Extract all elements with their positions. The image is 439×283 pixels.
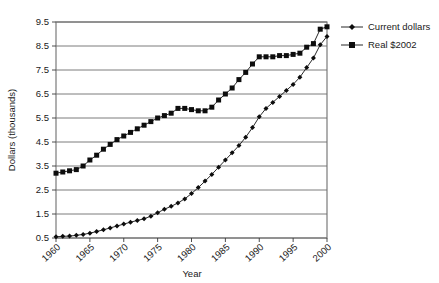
legend-item-current-dollars[interactable]: Current dollars — [341, 21, 431, 32]
legend-marker-square-icon — [349, 42, 355, 48]
data-point-marker — [121, 222, 126, 227]
data-point-marker — [169, 204, 174, 209]
data-point-marker — [236, 77, 241, 82]
data-point-marker — [175, 200, 180, 205]
chart-legend: Current dollarsReal $2002 — [341, 21, 431, 50]
data-point-marker — [135, 218, 140, 223]
data-point-marker — [94, 153, 99, 158]
data-point-marker — [297, 51, 302, 56]
data-point-marker — [189, 107, 194, 112]
data-point-marker — [128, 220, 133, 225]
data-point-marker — [135, 126, 140, 131]
x-tick-label: 1990 — [243, 241, 266, 263]
data-point-marker — [284, 53, 289, 58]
data-point-marker — [128, 130, 133, 135]
chart-container: 0.51.52.53.54.55.56.57.58.59.5 196019651… — [0, 0, 439, 283]
series-real-2002 — [54, 24, 330, 175]
y-tick-label: 2.5 — [36, 184, 49, 195]
x-tick-label: 1995 — [276, 241, 299, 263]
data-point-marker — [81, 232, 86, 237]
data-point-marker — [291, 52, 296, 57]
y-tick-label: 6.5 — [36, 88, 49, 99]
data-point-marker — [114, 224, 119, 229]
y-tick-label: 7.5 — [36, 64, 49, 75]
x-tick-label: 1965 — [73, 241, 96, 263]
data-point-marker — [162, 207, 167, 212]
data-point-marker — [67, 168, 72, 173]
data-point-marker — [311, 41, 316, 46]
data-point-marker — [304, 45, 309, 50]
data-series-group — [54, 24, 330, 239]
data-point-marker — [216, 98, 221, 103]
data-point-marker — [209, 105, 214, 110]
y-tick-label: 0.5 — [36, 232, 49, 243]
x-tick-label: 1980 — [175, 241, 198, 263]
data-point-marker — [74, 167, 79, 172]
data-point-marker — [155, 116, 160, 121]
legend-item-real-2002[interactable]: Real $2002 — [341, 39, 417, 50]
data-point-marker — [155, 210, 160, 215]
data-point-marker — [142, 216, 147, 221]
data-point-marker — [148, 119, 153, 124]
data-point-marker — [182, 106, 187, 111]
data-point-marker — [60, 170, 65, 175]
data-point-marker — [175, 106, 180, 111]
data-point-marker — [81, 164, 86, 169]
data-point-marker — [223, 92, 228, 97]
series-line — [56, 36, 327, 236]
series-line — [56, 27, 327, 173]
y-tick-label: 3.5 — [36, 160, 49, 171]
data-point-marker — [250, 62, 255, 67]
data-point-marker — [74, 233, 79, 238]
data-point-marker — [196, 108, 201, 113]
data-point-marker — [257, 54, 262, 59]
data-point-marker — [270, 54, 275, 59]
data-point-marker — [264, 54, 269, 59]
data-point-marker — [94, 229, 99, 234]
y-tick-label: 1.5 — [36, 208, 49, 219]
x-tick-label: 2000 — [310, 241, 333, 263]
data-point-marker — [243, 70, 248, 75]
y-axis-ticks: 0.51.52.53.54.55.56.57.58.59.5 — [36, 16, 56, 243]
x-axis-ticks: 196019651970197519801985199019952000 — [39, 238, 333, 264]
data-point-marker — [87, 231, 92, 236]
series-current-dollars — [54, 34, 330, 239]
data-point-marker — [142, 123, 147, 128]
y-axis-title: Dollars (thousands) — [6, 89, 17, 171]
data-point-marker — [277, 53, 282, 58]
data-point-marker — [325, 24, 330, 29]
y-tick-label: 9.5 — [36, 16, 49, 27]
data-point-marker — [114, 137, 119, 142]
data-point-marker — [108, 225, 113, 230]
data-point-marker — [230, 86, 235, 91]
x-tick-label: 1985 — [209, 241, 232, 263]
data-point-marker — [203, 108, 208, 113]
data-point-marker — [121, 134, 126, 139]
x-tick-label: 1970 — [107, 241, 130, 263]
y-tick-label: 8.5 — [36, 40, 49, 51]
data-point-marker — [162, 113, 167, 118]
data-point-marker — [101, 147, 106, 152]
x-tick-label: 1975 — [141, 241, 164, 263]
x-tick-label: 1960 — [39, 241, 62, 263]
data-point-marker — [54, 171, 59, 176]
y-tick-label: 4.5 — [36, 136, 49, 147]
legend-label: Current dollars — [368, 21, 431, 32]
y-tick-label: 5.5 — [36, 112, 49, 123]
data-point-marker — [87, 158, 92, 163]
legend-label: Real $2002 — [368, 39, 417, 50]
data-point-marker — [169, 111, 174, 116]
data-point-marker — [318, 27, 323, 32]
legend-marker-diamond-icon — [349, 24, 355, 30]
data-point-marker — [101, 227, 106, 232]
x-axis-title: Year — [182, 268, 201, 279]
data-point-marker — [108, 142, 113, 147]
line-chart: 0.51.52.53.54.55.56.57.58.59.5 196019651… — [0, 0, 439, 283]
